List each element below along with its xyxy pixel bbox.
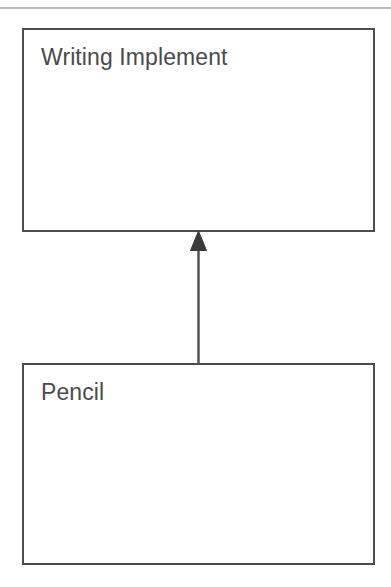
- generalization-connector[interactable]: [160, 228, 240, 368]
- uml-class-pencil[interactable]: Pencil: [22, 363, 375, 565]
- generalization-arrowhead-icon: [191, 231, 207, 251]
- page-top-rule: [0, 7, 391, 9]
- class-name-label: Writing Implement: [41, 42, 228, 72]
- diagram-canvas: Writing Implement Pencil: [0, 0, 391, 587]
- uml-class-writing-implement[interactable]: Writing Implement: [22, 28, 375, 232]
- class-name-label: Pencil: [41, 377, 104, 407]
